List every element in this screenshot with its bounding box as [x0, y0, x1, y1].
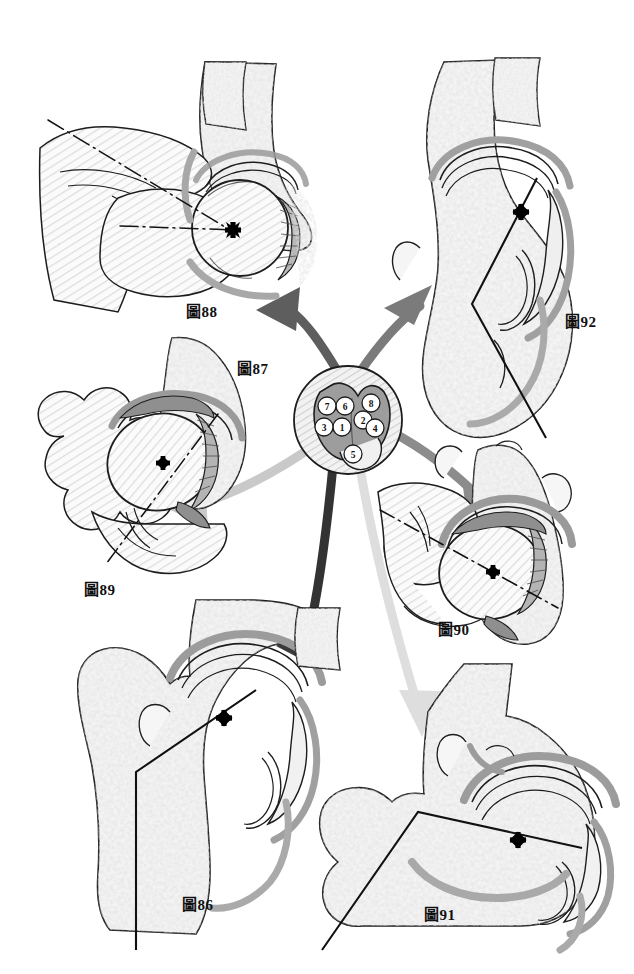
hub-marker-8-label: 8: [369, 399, 374, 409]
plate-canvas: 1 2 3 4 5 6 7: [0, 0, 634, 974]
hub-marker-1-label: 1: [340, 423, 345, 433]
figure-label-fig88: 圖88: [186, 300, 218, 321]
hub-marker-5-label: 5: [351, 450, 356, 460]
panel-fig87-hub: 1 2 3 4 5 6 7: [294, 366, 402, 474]
hub-marker-6[interactable]: 6: [336, 397, 354, 415]
hub-marker-8[interactable]: 8: [362, 394, 380, 412]
hub-marker-4[interactable]: 4: [366, 419, 384, 437]
hub-marker-3[interactable]: 3: [315, 418, 333, 436]
figure-label-fig92: 圖92: [565, 310, 597, 331]
fig88-center-marker: [225, 222, 241, 238]
hub-marker-6-label: 6: [343, 402, 348, 412]
figure-label-fig91: 圖91: [424, 903, 456, 924]
hub-marker-2-label: 2: [361, 416, 366, 426]
figure-label-fig87: 圖87: [237, 357, 269, 378]
figure-plate: 1 2 3 4 5 6 7: [0, 0, 634, 974]
hub-marker-5[interactable]: 5: [344, 445, 362, 463]
figure-label-fig86: 圖86: [182, 893, 214, 914]
hub-marker-4-label: 4: [373, 424, 378, 434]
hub-marker-1[interactable]: 1: [333, 418, 351, 436]
hub-marker-7-label: 7: [325, 402, 330, 412]
hub-marker-3-label: 3: [322, 423, 327, 433]
figure-label-fig90: 圖90: [438, 618, 470, 639]
figure-label-fig89: 圖89: [84, 578, 116, 599]
hub-marker-7[interactable]: 7: [318, 397, 336, 415]
